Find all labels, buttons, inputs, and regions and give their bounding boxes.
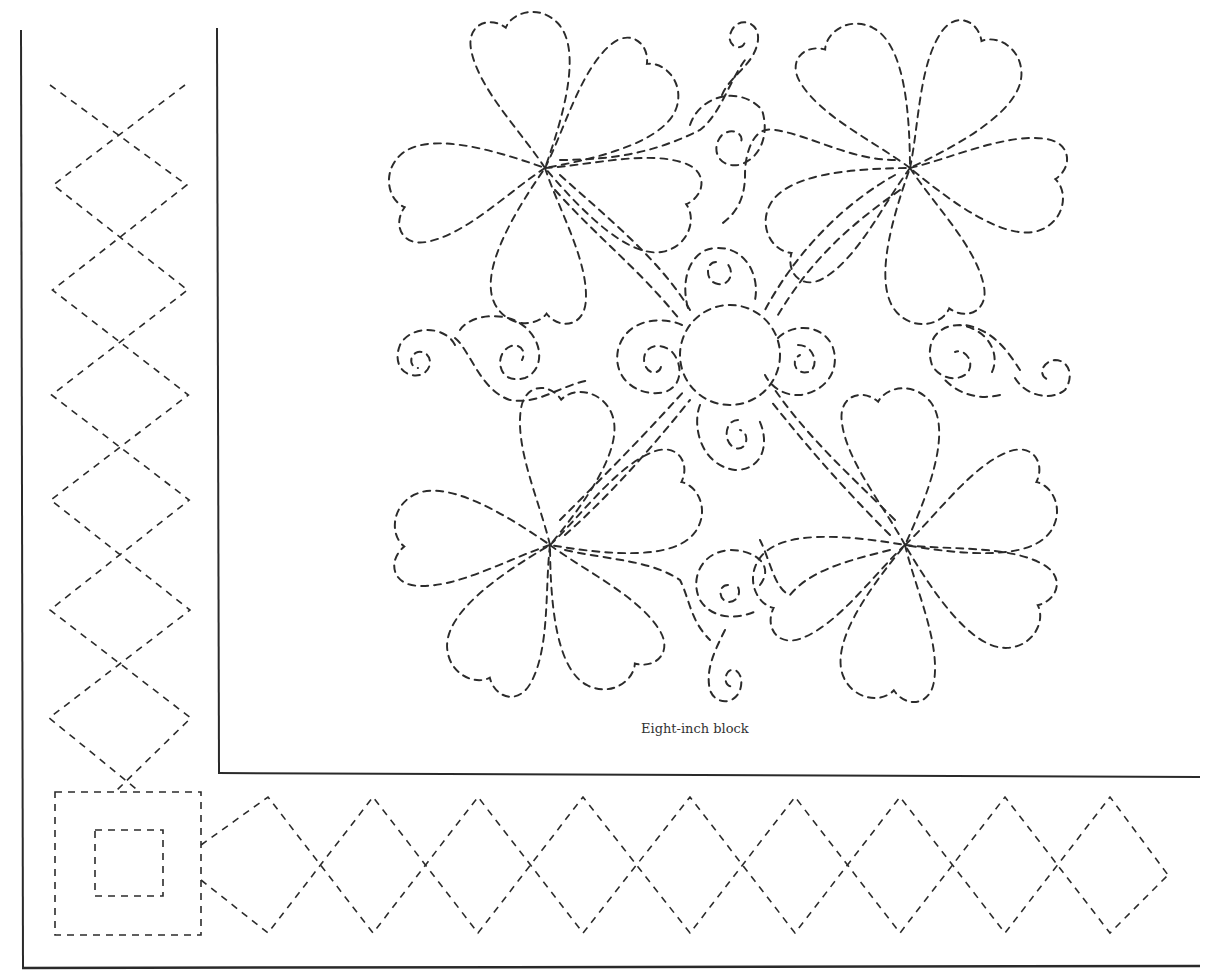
flower-petal	[487, 164, 597, 328]
swirl-bottom	[709, 630, 742, 701]
bottom-zigzag-a	[201, 797, 1168, 933]
flower-petal	[834, 537, 956, 708]
flower-petal	[787, 10, 949, 194]
swirls	[398, 22, 1070, 701]
left-border-diamond-chain	[49, 85, 191, 792]
block-bottom-line	[218, 773, 1200, 777]
swirl-ring-right	[765, 328, 835, 395]
page-bottom-line	[22, 966, 1200, 968]
corner-inner-square	[95, 830, 163, 896]
flower-top-left	[383, 6, 710, 328]
frame	[21, 28, 1200, 968]
flower-petal	[499, 382, 621, 553]
outer-left-line	[21, 30, 23, 968]
block-motif	[383, 6, 1073, 708]
swirl-upper-center	[690, 96, 765, 165]
swirl-top	[722, 22, 758, 95]
flower-petal	[512, 519, 674, 703]
swirl-ring-bottom	[697, 405, 764, 470]
flower-bottom-right	[743, 385, 1067, 708]
inner-left-line	[217, 28, 219, 773]
flower-petal	[883, 500, 1067, 662]
flower-petal	[867, 159, 989, 330]
flower-petal	[839, 385, 949, 549]
left-zigzag-b	[50, 85, 191, 792]
flower-petal	[383, 125, 554, 247]
flower-petal	[887, 442, 1067, 586]
flower-petal	[902, 117, 1073, 239]
flower-petal	[532, 442, 712, 586]
swirl-right-outer	[1015, 360, 1070, 396]
bottom-zigzag-b	[201, 797, 1168, 933]
swirl-ring-top	[685, 248, 756, 308]
quilting-pattern-page	[0, 0, 1213, 980]
flower-petal	[743, 504, 923, 648]
flower-petal	[867, 10, 1036, 193]
flower-petal	[466, 6, 588, 177]
flower-petal	[752, 130, 936, 292]
swirl-left-inner	[460, 316, 539, 379]
center-circle	[680, 305, 780, 405]
corner-block	[55, 792, 201, 935]
ring-swirls	[617, 248, 835, 470]
block-caption: Eight-inch block	[641, 721, 749, 736]
left-zigzag-a	[49, 85, 190, 792]
flowers	[383, 6, 1073, 708]
swirl-lower-center	[696, 550, 765, 617]
flower-petal	[390, 487, 554, 597]
connector-curves	[455, 60, 1020, 640]
bottom-border-diamond-chain	[201, 797, 1168, 933]
corner-outer-square	[55, 792, 201, 935]
swirl-ring-left	[617, 320, 682, 393]
swirl-left-outer	[398, 330, 455, 375]
